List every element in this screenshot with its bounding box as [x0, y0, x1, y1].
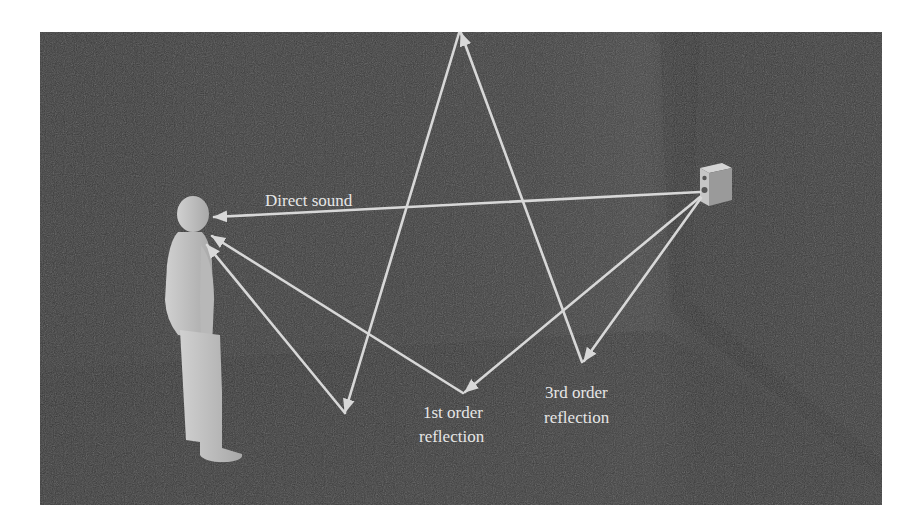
- loudspeaker: [700, 163, 732, 206]
- label-first-order-line2: reflection: [419, 427, 485, 446]
- label-first-order-line1: 1st order: [423, 403, 483, 422]
- label-third-order-line2: reflection: [544, 408, 610, 427]
- room-acoustics-diagram: Direct sound 1st order reflection 3rd or…: [0, 0, 917, 532]
- label-direct-sound: Direct sound: [265, 191, 353, 210]
- label-third-order-line1: 3rd order: [545, 383, 608, 402]
- listener-head: [177, 196, 209, 232]
- speaker-tweeter-icon: [702, 176, 706, 180]
- speaker-woofer-icon: [702, 187, 708, 193]
- speaker-side: [709, 168, 732, 206]
